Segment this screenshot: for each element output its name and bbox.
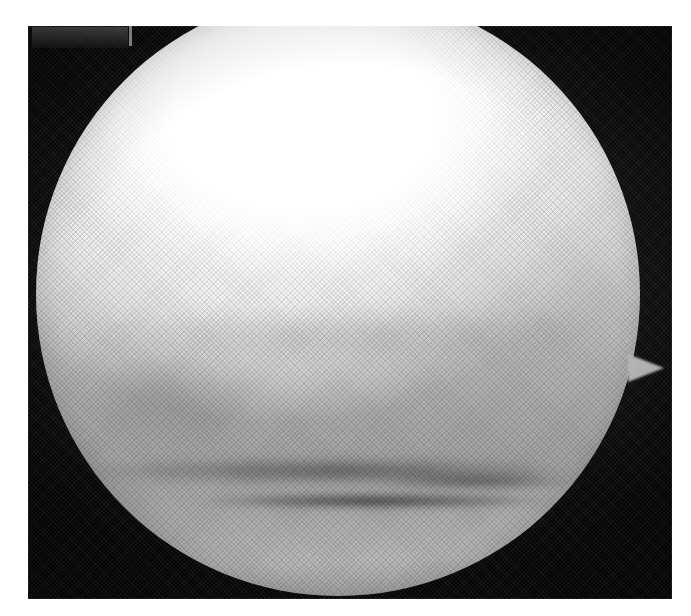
sphere-rim-highlight [36,26,640,596]
sphere-container [28,26,672,599]
sphere-protrusion-spike [628,354,664,382]
page-root [0,0,691,616]
illuminated-sphere [36,26,640,596]
scanned-photo-plate [28,26,672,599]
